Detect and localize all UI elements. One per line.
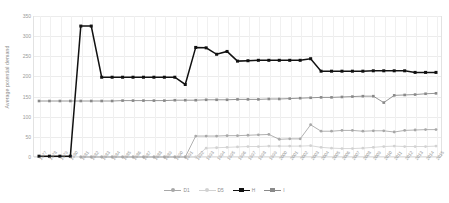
data-point — [100, 76, 103, 79]
legend-item-D5[interactable]: D5 — [199, 187, 224, 194]
series-D1 — [79, 123, 437, 158]
data-point — [309, 96, 312, 99]
data-point — [205, 98, 208, 101]
data-point — [226, 146, 229, 149]
data-point — [424, 71, 427, 74]
data-point — [267, 133, 270, 136]
data-point — [372, 146, 375, 149]
data-point — [320, 146, 323, 149]
chart-container: 050100150200250300350 Average potential … — [0, 0, 449, 203]
data-point — [278, 145, 281, 148]
data-point — [59, 100, 62, 103]
data-point — [320, 130, 323, 133]
data-point — [372, 69, 375, 72]
series-line — [39, 93, 436, 102]
data-point — [330, 70, 333, 73]
series-layer — [33, 16, 442, 157]
data-point — [215, 98, 218, 101]
data-point — [435, 145, 438, 148]
data-point — [299, 59, 302, 62]
data-point — [393, 145, 396, 148]
data-point — [69, 100, 72, 103]
data-point — [257, 98, 260, 101]
legend-marker-icon — [164, 187, 181, 194]
data-point — [215, 53, 218, 56]
data-point — [403, 94, 406, 97]
data-point — [268, 98, 271, 101]
data-point — [90, 100, 93, 103]
data-point — [132, 99, 135, 102]
data-point — [320, 70, 323, 73]
data-point — [226, 50, 229, 53]
data-point — [351, 95, 354, 98]
x-axis-ticks: 1977197819791980198119821983198419851986… — [33, 158, 442, 182]
data-point — [351, 147, 354, 150]
data-point — [382, 145, 385, 148]
data-point — [414, 93, 417, 96]
legend-label: D5 — [218, 188, 224, 193]
data-point — [299, 145, 302, 148]
data-point — [362, 95, 365, 98]
data-point — [330, 130, 333, 133]
data-point — [257, 59, 260, 62]
data-point — [194, 135, 197, 138]
legend-marker-icon — [199, 187, 216, 194]
y-axis-title-wrap: Average potential demand — [0, 16, 13, 157]
data-point — [288, 145, 291, 148]
data-point — [111, 100, 114, 103]
data-point — [435, 92, 438, 95]
data-point — [309, 123, 312, 126]
data-point — [341, 147, 344, 150]
data-point — [382, 129, 385, 132]
data-point — [184, 99, 187, 102]
data-point — [173, 76, 176, 79]
legend-item-H[interactable]: H — [233, 187, 255, 194]
data-point — [236, 98, 239, 101]
data-point — [257, 145, 260, 148]
data-point — [424, 145, 427, 148]
data-point — [393, 94, 396, 97]
data-point — [403, 145, 406, 148]
data-point — [309, 144, 312, 147]
data-point — [226, 134, 229, 137]
legend-item-D1[interactable]: D1 — [164, 187, 189, 194]
data-point — [288, 59, 291, 62]
data-point — [299, 97, 302, 100]
legend-label: D1 — [183, 188, 189, 193]
series-H — [38, 25, 438, 158]
data-point — [299, 137, 302, 140]
data-point — [278, 138, 281, 141]
data-point — [79, 25, 82, 28]
data-point — [246, 59, 249, 62]
legend-label: I — [283, 188, 284, 193]
data-point — [257, 133, 260, 136]
legend-label: H — [252, 188, 255, 193]
data-point — [330, 96, 333, 99]
data-point — [236, 146, 239, 149]
data-point — [403, 129, 406, 132]
data-point — [361, 147, 364, 150]
data-point — [236, 134, 239, 137]
data-point — [174, 99, 177, 102]
data-point — [424, 92, 427, 95]
data-point — [153, 99, 156, 102]
data-point — [121, 99, 124, 102]
data-point — [132, 76, 135, 79]
data-point — [142, 76, 145, 79]
data-point — [414, 129, 417, 132]
data-point — [309, 57, 312, 60]
data-point — [361, 130, 364, 133]
data-point — [226, 98, 229, 101]
data-point — [414, 71, 417, 74]
data-point — [435, 128, 438, 131]
data-point — [361, 70, 364, 73]
data-point — [163, 76, 166, 79]
data-point — [330, 147, 333, 150]
data-point — [236, 60, 239, 63]
data-point — [205, 147, 208, 150]
legend-item-I[interactable]: I — [264, 187, 284, 194]
data-point — [48, 100, 51, 103]
data-point — [288, 137, 291, 140]
data-point — [247, 134, 250, 137]
data-point — [152, 76, 155, 79]
